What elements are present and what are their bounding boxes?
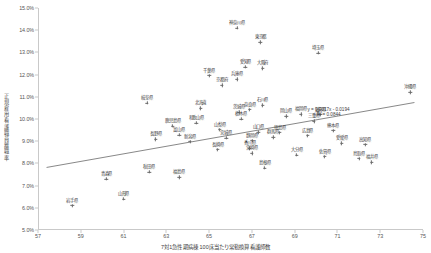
y-tick-mark: [35, 119, 38, 120]
trendline-r-squared: R² = 0.0844: [308, 112, 350, 118]
data-point[interactable]: [357, 157, 360, 160]
y-tick-mark: [35, 163, 38, 164]
data-point-label: 奈良県: [244, 102, 256, 107]
x-axis-title: 7対1急性期病棟 100床当たり常勤換算看護師数: [0, 243, 431, 251]
x-tick-mark: [38, 230, 39, 233]
data-point-label: 熊本県: [327, 123, 339, 128]
data-point-label: 沖縄県: [404, 85, 416, 90]
data-point[interactable]: [295, 153, 298, 156]
data-point[interactable]: [364, 143, 367, 146]
data-point-label: 千葉県: [203, 68, 215, 73]
data-point[interactable]: [195, 121, 198, 124]
data-point[interactable]: [235, 78, 238, 81]
data-point-label: 岡山県: [280, 109, 292, 114]
data-point-label: 北海道: [195, 101, 207, 106]
data-point[interactable]: [261, 67, 264, 70]
data-point-label: 富山県: [173, 128, 185, 133]
data-point-label: 栃木県: [235, 112, 247, 117]
data-point-label: 鳥取県: [353, 151, 365, 156]
data-point-label: 山形県: [118, 192, 130, 197]
y-tick-mark: [35, 141, 38, 142]
y-tick-mark: [35, 8, 38, 9]
data-point[interactable]: [272, 136, 275, 139]
data-point[interactable]: [299, 112, 302, 115]
x-tick-mark: [123, 230, 124, 233]
data-point-label: 福島県: [173, 170, 185, 175]
x-tick-mark: [80, 230, 81, 233]
data-point[interactable]: [331, 129, 334, 132]
x-tick-mark: [423, 230, 424, 233]
data-point-label: 茨城県: [233, 105, 245, 110]
data-point[interactable]: [340, 142, 343, 145]
data-point-label: 青森県: [101, 172, 113, 177]
trendline: [38, 8, 423, 230]
data-point-label: 宮城県: [220, 130, 232, 135]
data-point[interactable]: [148, 170, 151, 173]
data-point-label: 広島県: [302, 128, 314, 133]
data-point-label: 兵庫県: [231, 72, 243, 77]
data-point[interactable]: [199, 107, 202, 110]
data-point[interactable]: [244, 65, 247, 68]
scatter-chart: 正規雇用看護職員離職率 5.0%6.0%7.0%8.0%9.0%10.0%11.…: [0, 0, 431, 253]
plot-area: 5.0%6.0%7.0%8.0%9.0%10.0%11.0%12.0%13.0%…: [38, 8, 423, 230]
data-point[interactable]: [316, 51, 319, 54]
data-point[interactable]: [248, 108, 251, 111]
data-point[interactable]: [370, 161, 373, 164]
data-point-label: 新潟県: [184, 134, 196, 139]
data-point[interactable]: [261, 104, 264, 107]
data-point[interactable]: [145, 101, 148, 104]
data-point[interactable]: [263, 166, 266, 169]
y-tick-mark: [35, 96, 38, 97]
data-point[interactable]: [284, 115, 287, 118]
data-point[interactable]: [235, 26, 238, 29]
data-point-label: 静岡県: [246, 133, 258, 138]
data-point[interactable]: [177, 175, 180, 178]
x-tick-mark: [251, 230, 252, 233]
data-point[interactable]: [306, 134, 309, 137]
data-point[interactable]: [259, 41, 262, 44]
x-tick-mark: [337, 230, 338, 233]
data-point-label: 鹿児島県: [165, 119, 180, 124]
data-point-label: 東京都: [255, 35, 267, 40]
y-tick-mark: [35, 74, 38, 75]
data-point[interactable]: [188, 140, 191, 143]
data-point[interactable]: [154, 138, 157, 141]
data-point-label: 大分県: [291, 148, 303, 153]
data-point[interactable]: [216, 148, 219, 151]
data-point[interactable]: [239, 117, 242, 120]
x-tick-mark: [209, 230, 210, 233]
data-point-label: 愛知県: [240, 59, 252, 64]
data-point[interactable]: [323, 155, 326, 158]
data-point[interactable]: [408, 91, 411, 94]
data-point-label: 石川県: [257, 98, 269, 103]
y-axis-title: 正規雇用看護職員離職率: [2, 92, 11, 160]
data-point-label: 高知県: [359, 137, 371, 142]
data-point[interactable]: [250, 152, 253, 155]
data-point[interactable]: [207, 74, 210, 77]
data-point[interactable]: [177, 133, 180, 136]
data-point-label: 福岡県: [295, 107, 307, 112]
data-point-label: 大阪府: [257, 61, 269, 66]
data-point-label: 島根県: [259, 160, 271, 165]
data-point-label: 岩手県: [66, 198, 78, 203]
data-point[interactable]: [105, 177, 108, 180]
data-point-label: 京都府: [216, 78, 228, 83]
x-tick-mark: [166, 230, 167, 233]
data-point-label: 宮崎県: [246, 146, 258, 151]
data-point[interactable]: [122, 197, 125, 200]
data-point-label: 山梨県: [214, 122, 226, 127]
data-point-label: 長崎県: [212, 142, 224, 147]
x-tick-mark: [294, 230, 295, 233]
data-point-label: 神奈川県: [229, 21, 244, 26]
data-point[interactable]: [225, 136, 228, 139]
data-point-label: 長野県: [150, 132, 162, 137]
data-point[interactable]: [220, 84, 223, 87]
data-point-label: 福井県: [366, 155, 378, 160]
data-point-label: 秋田県: [143, 164, 155, 169]
data-point-label: 埼玉県: [312, 45, 324, 50]
x-tick-mark: [380, 230, 381, 233]
trendline-equation-box: y = 0.0017x - 0.0194 R² = 0.0844: [308, 107, 350, 118]
data-point[interactable]: [312, 120, 315, 123]
data-point[interactable]: [71, 204, 74, 207]
data-point-label: 和歌山県: [189, 116, 204, 121]
